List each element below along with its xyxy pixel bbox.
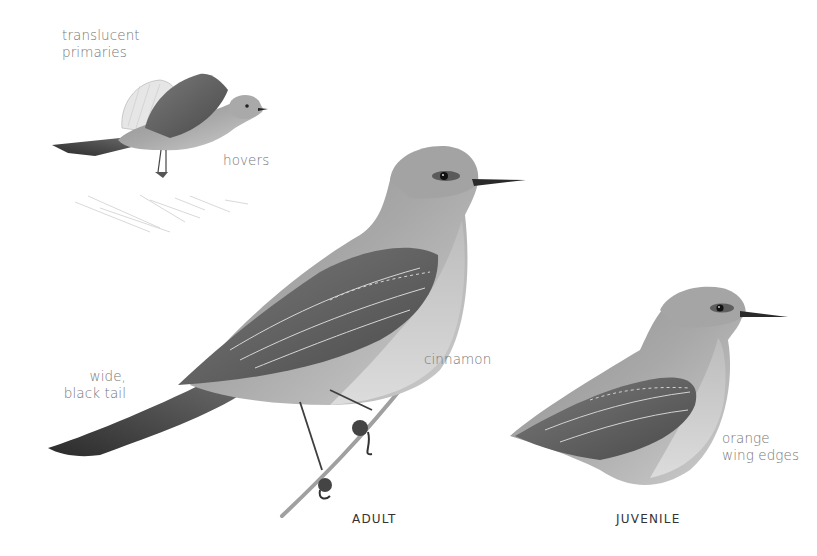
label-line: orange <box>722 430 799 447</box>
label-line: black tail <box>40 385 126 402</box>
label-line: translucent <box>62 27 140 44</box>
bird-illustrations <box>0 0 817 556</box>
caption-adult: ADULT <box>352 512 397 526</box>
label-line: cinnamon <box>424 351 491 368</box>
label-cinnamon: cinnamon <box>424 351 491 368</box>
label-line: primaries <box>62 44 140 61</box>
label-wide-black-tail: wide, black tail <box>40 368 126 402</box>
label-line: wide, <box>40 368 126 385</box>
label-line: hovers <box>223 152 269 169</box>
label-orange-wing-edges: orange wing edges <box>722 430 799 464</box>
label-hovers: hovers <box>223 152 269 169</box>
caption-juvenile: JUVENILE <box>616 512 681 526</box>
label-translucent-primaries: translucent primaries <box>62 27 140 61</box>
label-line: wing edges <box>722 447 799 464</box>
illustration-plate: translucent primaries hovers wide, black… <box>0 0 817 556</box>
adult-bird <box>48 146 526 516</box>
